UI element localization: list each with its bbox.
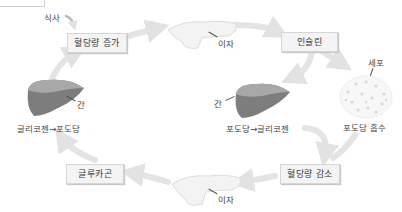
glucose-to-glycogen-label: 포도당→글리코젠 [226, 122, 289, 134]
glucagon-box: 글루카곤 [66, 164, 124, 184]
cells-icon [338, 74, 394, 124]
pancreas-top-label: 이자 [218, 37, 234, 49]
blood-sugar-increase-box: 혈당량 증가 [67, 33, 127, 53]
glycogen-to-glucose-label: 글리코젠→포도당 [17, 122, 80, 134]
liver-right-label: 간 [214, 97, 222, 109]
pancreas-bottom-label: 이자 [218, 193, 234, 205]
pancreas-bottom-icon [168, 170, 244, 212]
blood-sugar-decrease-box: 혈당량 감소 [280, 164, 340, 184]
meal-label: 식사 [44, 11, 60, 23]
glucose-absorption-label: 포도당 흡수 [343, 121, 386, 133]
liver-left-label: 간 [77, 98, 85, 110]
liver-right-icon [232, 82, 292, 124]
cell-label: 세포 [368, 56, 384, 68]
insulin-box: 인슐린 [281, 32, 338, 52]
